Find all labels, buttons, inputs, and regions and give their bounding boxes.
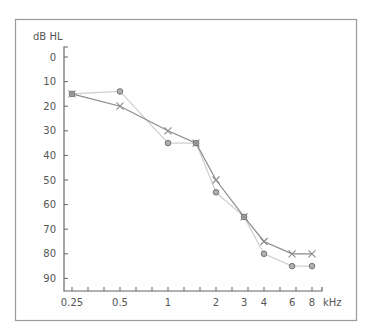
- x-tick-label: 3: [241, 297, 247, 308]
- y-tick-label: 30: [43, 125, 56, 136]
- chart-frame: [16, 20, 357, 321]
- y-axis-label: dB HL: [33, 31, 63, 42]
- y-tick-label: 70: [43, 224, 56, 235]
- audiogram-chart: dB HL kHz 0102030405060708090 0.250.5123…: [0, 0, 368, 332]
- circle-marker: [289, 263, 295, 269]
- x-tick-label: 6: [289, 297, 295, 308]
- y-tick-label: 20: [43, 101, 56, 112]
- y-tick-label: 50: [43, 175, 56, 186]
- cross-series-line: [72, 94, 312, 254]
- x-tick-label: 4: [261, 297, 267, 308]
- circle-marker: [117, 89, 123, 95]
- x-marker: [261, 238, 268, 245]
- circle-marker: [165, 140, 171, 146]
- axes: [64, 47, 322, 291]
- y-tick-label: 40: [43, 150, 56, 161]
- y-tick-label: 60: [43, 199, 56, 210]
- y-tick-label: 90: [43, 273, 56, 284]
- y-tick-label: 80: [43, 248, 56, 259]
- y-tick-label: 10: [43, 76, 56, 87]
- y-tick-label: 0: [50, 52, 56, 63]
- circle-marker: [213, 190, 219, 196]
- x-axis-label: kHz: [323, 297, 342, 308]
- x-tick-label: 2: [213, 297, 219, 308]
- x-ticks: 0.250.5123468: [61, 287, 315, 308]
- circle-marker: [261, 251, 267, 257]
- x-tick-label: 1: [165, 297, 171, 308]
- data-series: [69, 89, 316, 269]
- circle-series-line: [72, 91, 312, 266]
- x-tick-label: 0.5: [112, 297, 128, 308]
- x-tick-label: 0.25: [61, 297, 83, 308]
- x-tick-label: 8: [309, 297, 315, 308]
- x-marker: [117, 103, 124, 110]
- x-marker: [165, 127, 172, 134]
- circle-marker: [309, 263, 315, 269]
- x-marker: [213, 177, 220, 184]
- axis-lines: [64, 47, 322, 291]
